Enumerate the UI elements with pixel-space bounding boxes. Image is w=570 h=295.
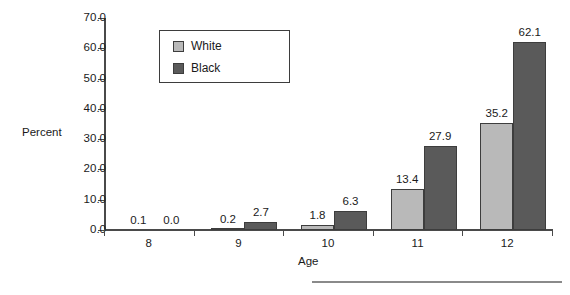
bar-value-label: 27.9	[417, 131, 463, 143]
bar-chart: 0.010.020.030.040.050.060.070.0 89101112…	[0, 0, 570, 295]
x-tick-label-age-10: 10	[308, 238, 348, 250]
bar-value-label: 6.3	[328, 196, 374, 208]
y-tick-label: 30.0	[62, 133, 106, 145]
footer-rule	[312, 281, 562, 283]
y-tick-label: 50.0	[62, 73, 106, 85]
legend-item-white: White	[173, 40, 222, 52]
bar-black-age-11	[424, 146, 457, 230]
y-tick-label: 60.0	[62, 42, 106, 54]
x-tick-label-age-12: 12	[487, 238, 527, 250]
y-tick-label: 70.0	[62, 12, 106, 24]
y-axis-title: Percent	[22, 126, 62, 138]
legend-label-white: White	[191, 40, 222, 52]
bar-white-age-12	[480, 123, 513, 230]
y-tick-label: 10.0	[62, 194, 106, 206]
legend-swatch-black	[173, 63, 184, 74]
x-tick-label-age-8: 8	[129, 238, 169, 250]
bar-black-age-10	[334, 211, 367, 230]
y-tick-label: 0.0	[62, 224, 106, 236]
bar-white-age-9	[211, 228, 244, 230]
bar-white-age-11	[391, 189, 424, 230]
x-tick-mark	[373, 229, 374, 236]
bar-black-age-9	[244, 222, 277, 230]
bar-value-label: 0.0	[148, 215, 194, 227]
x-tick-mark	[462, 229, 463, 236]
bar-value-label: 2.7	[238, 207, 284, 219]
bar-black-age-12	[513, 42, 546, 230]
legend-swatch-white	[173, 41, 184, 52]
x-tick-mark	[104, 229, 105, 236]
x-tick-mark	[283, 229, 284, 236]
x-tick-label-age-11: 11	[398, 238, 438, 250]
bar-white-age-10	[301, 225, 334, 230]
x-tick-mark	[552, 229, 553, 236]
y-tick-label: 20.0	[62, 163, 106, 175]
y-tick-label: 40.0	[62, 103, 106, 115]
legend-item-black: Black	[173, 62, 220, 74]
legend: White Black	[159, 30, 290, 83]
x-axis-title: Age	[298, 255, 318, 267]
x-tick-label-age-9: 9	[218, 238, 258, 250]
x-tick-mark	[194, 229, 195, 236]
bar-value-label: 62.1	[507, 27, 553, 39]
legend-label-black: Black	[191, 62, 220, 74]
